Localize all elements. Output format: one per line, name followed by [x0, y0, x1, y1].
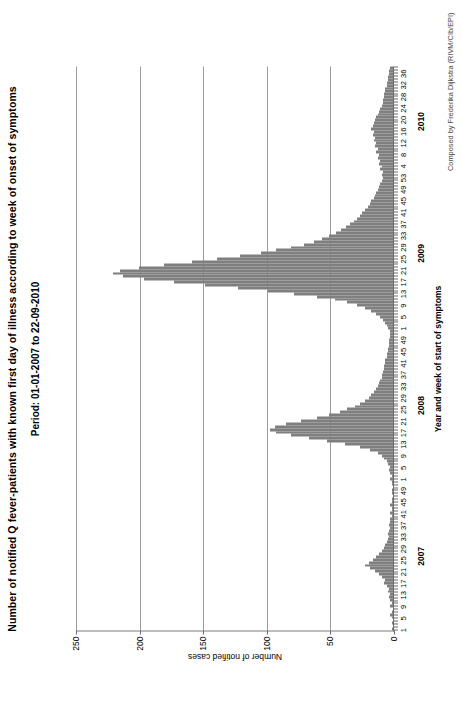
x-axis-tick-mark — [394, 481, 398, 482]
x-axis-tick-mark — [394, 87, 398, 88]
x-axis-tick-mark — [394, 588, 398, 589]
x-axis-year-label: 2007 — [416, 546, 426, 565]
x-axis-tick-label: 49 — [399, 486, 408, 494]
x-axis-tick-mark — [394, 626, 398, 627]
x-axis-tick-mark — [394, 316, 398, 317]
x-axis-tick-mark — [394, 487, 398, 488]
x-axis-tick-label: 41 — [399, 509, 408, 517]
x-axis-year-labels: 2007200820092010 — [416, 66, 430, 631]
x-axis-tick-mark — [394, 571, 398, 572]
y-axis-tick-label: 0 — [390, 636, 398, 664]
x-axis-tick-mark — [394, 562, 398, 563]
x-axis-tick-mark — [394, 84, 398, 85]
x-axis-tick-mark — [394, 150, 398, 151]
x-axis-tick-mark — [394, 93, 398, 94]
x-axis-tick-mark — [394, 495, 398, 496]
x-axis-tick-mark — [394, 400, 398, 401]
x-axis-tick-mark — [394, 200, 398, 201]
x-axis-tick-mark — [394, 443, 398, 444]
x-axis-tick-mark — [394, 408, 398, 409]
x-axis-tick-mark — [394, 498, 398, 499]
x-axis-tick-mark — [394, 466, 398, 467]
x-axis-tick-mark — [394, 284, 398, 285]
x-axis-tick-label: 49 — [399, 185, 408, 193]
x-axis-tick-mark — [394, 545, 398, 546]
x-axis-tick-mark — [394, 191, 398, 192]
x-axis-tick-mark — [394, 269, 398, 270]
credit-note: Composed by Frederika Dijkstra (RIVM/CIb… — [446, 12, 455, 171]
x-axis-tick-mark — [394, 330, 398, 331]
x-axis-tick-mark — [394, 530, 398, 531]
x-axis-tick-mark — [394, 217, 398, 218]
x-axis-tick-mark — [394, 516, 398, 517]
x-axis-tick-mark — [394, 597, 398, 598]
x-axis-tick-label: 45 — [399, 347, 408, 355]
x-axis-tick-mark — [394, 345, 398, 346]
x-axis-tick-mark — [394, 507, 398, 508]
x-axis-tick-mark — [394, 66, 398, 67]
x-axis-tick-mark — [394, 432, 398, 433]
x-axis-tick-label: 29 — [399, 243, 408, 251]
x-axis-tick-mark — [394, 258, 398, 259]
x-axis-tick-label: 1 — [399, 326, 408, 330]
x-axis-tick-mark — [394, 104, 398, 105]
x-axis-tick-label: 41 — [399, 359, 408, 367]
x-axis-tick-mark — [394, 423, 398, 424]
chart-canvas: Number of notified Q fever-patients with… — [0, 0, 462, 717]
x-axis-tick-mark — [394, 98, 398, 99]
x-axis-tick-mark — [394, 203, 398, 204]
y-axis-tick-label: 250 — [72, 636, 80, 664]
x-axis-tick-label: 45 — [399, 197, 408, 205]
y-axis-tick-label: 200 — [136, 636, 144, 664]
x-axis-tick-mark — [394, 403, 398, 404]
x-axis-tick-mark — [394, 600, 398, 601]
x-axis-tick-label: 36 — [399, 69, 408, 77]
x-axis-tick-label: 1 — [399, 477, 408, 481]
x-axis-tick-label: 29 — [399, 394, 408, 402]
chart-title: Number of notified Q fever-patients with… — [6, 0, 19, 717]
x-axis-tick-mark — [394, 527, 398, 528]
x-axis-tick-label: 33 — [399, 231, 408, 239]
x-axis-tick-mark — [394, 240, 398, 241]
x-axis-tick-mark — [394, 533, 398, 534]
x-axis-tick-mark — [394, 211, 398, 212]
x-axis-tick-mark — [394, 582, 398, 583]
bar — [390, 66, 393, 69]
x-axis-tick-mark — [394, 333, 398, 334]
x-axis-tick-mark — [394, 113, 398, 114]
x-axis-tick-mark — [394, 188, 398, 189]
x-axis-tick-mark — [394, 185, 398, 186]
x-axis-tick-mark — [394, 585, 398, 586]
x-axis-tick-mark — [394, 350, 398, 351]
x-axis-tick-mark — [394, 78, 398, 79]
x-axis-tick-mark — [394, 292, 398, 293]
x-axis-tick-mark — [394, 156, 398, 157]
x-axis-tick-mark — [394, 281, 398, 282]
x-axis-tick-mark — [394, 576, 398, 577]
x-axis-tick-mark — [394, 237, 398, 238]
x-axis-tick-mark — [394, 313, 398, 314]
x-axis-tick-mark — [394, 263, 398, 264]
x-axis-tick-mark — [394, 90, 398, 91]
x-axis-tick-mark — [394, 620, 398, 621]
x-axis-tick-label: 9 — [399, 454, 408, 458]
x-axis-tick-label: 13 — [399, 591, 408, 599]
bar — [392, 610, 393, 613]
x-axis-tick-mark — [394, 246, 398, 247]
x-axis-tick-mark — [394, 119, 398, 120]
x-axis-tick-mark — [394, 162, 398, 163]
y-axis-tick-mark — [330, 630, 331, 634]
x-axis-year-label: 2008 — [416, 396, 426, 415]
x-axis-tick-mark — [394, 148, 398, 149]
x-axis-tick-mark — [394, 153, 398, 154]
x-axis-tick-mark — [394, 484, 398, 485]
x-axis-tick-label: 21 — [399, 266, 408, 274]
x-axis-tick-mark — [394, 95, 398, 96]
x-axis-tick-label: 32 — [399, 81, 408, 89]
x-axis-tick-label: 8 — [399, 152, 408, 156]
x-axis-tick-label: 13 — [399, 289, 408, 297]
x-axis-tick-mark — [394, 182, 398, 183]
x-axis-tick-mark — [394, 122, 398, 123]
x-axis-tick-label: 1 — [399, 627, 408, 631]
x-axis-tick-mark — [394, 116, 398, 117]
